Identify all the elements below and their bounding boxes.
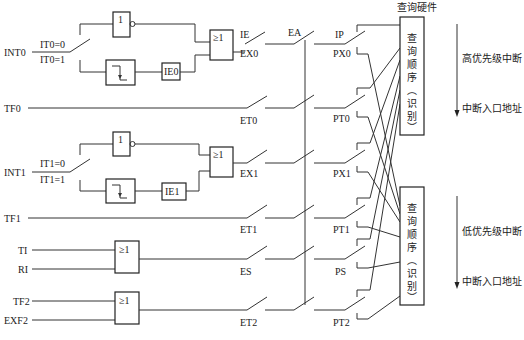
pt2-label: PT2 xyxy=(333,317,350,328)
int1-label: INT1 xyxy=(4,167,26,178)
it1-selector-switch xyxy=(70,159,90,172)
ex1-label: EX1 xyxy=(240,168,258,179)
char: 序 xyxy=(407,241,417,253)
pt1-label: PT1 xyxy=(333,224,350,235)
tf2-label: TF2 xyxy=(13,296,30,307)
char: 识 xyxy=(407,268,417,279)
tf1-section: TF1 ET1 xyxy=(4,205,267,235)
query-hardware-title: 查询硬件 xyxy=(397,1,437,13)
priority-switches: IP PX0 PT0 PX1 PT1 PS PT2 xyxy=(314,25,400,328)
routing-wires xyxy=(368,48,400,319)
low-priority-label: 低优先级中断 xyxy=(462,225,522,237)
char: 别 xyxy=(407,281,417,292)
it1-0-label: IT1=0 xyxy=(40,158,65,169)
tf1-label: TF1 xyxy=(4,213,21,224)
pt2-switch xyxy=(345,297,365,310)
char: ︶ xyxy=(407,122,417,133)
ps-switch xyxy=(345,246,365,259)
char: 询 xyxy=(407,45,417,57)
query-hardware: 查询硬件 查 询 顺 序 ︵ 识 别 ︶ 查 询 顺 序 ︵ 识 别 ︶ 高优先… xyxy=(397,1,522,305)
interrupt-system-diagram: INT0 IT0=0 IT0=1 1 IE0 ≥1 IE EX0 xyxy=(0,0,524,340)
char: 查 xyxy=(407,202,417,214)
ex0-label: EX0 xyxy=(240,48,258,59)
et1-label: ET1 xyxy=(240,224,257,235)
exf2-label: EXF2 xyxy=(4,315,28,326)
low-box-text: 查 询 顺 序 ︵ 识 别 ︶ xyxy=(407,202,417,303)
timer2-section: TF2 EXF2 ≥1 ET2 xyxy=(4,292,267,328)
high-priority-label: 高优先级中断 xyxy=(462,52,522,64)
or-gate-symbol: ≥1 xyxy=(119,295,130,306)
int0-section: INT0 IT0=0 IT0=1 1 IE0 ≥1 IE EX0 xyxy=(4,12,265,85)
char: ︵ xyxy=(407,85,417,96)
char: 查 xyxy=(407,32,417,44)
char: 识 xyxy=(407,98,417,109)
tf0-label: TF0 xyxy=(4,103,21,114)
inverter-bubble xyxy=(130,142,135,147)
ie-label: IE xyxy=(240,29,249,40)
pt0-switch xyxy=(345,95,365,108)
char: 序 xyxy=(407,71,417,83)
it0-1-label: IT0=1 xyxy=(40,54,65,65)
serial-section: TI RI ≥1 ES xyxy=(18,241,267,277)
not-gate-symbol: 1 xyxy=(118,134,123,145)
tf0-section: TF0 ET0 xyxy=(4,96,267,126)
ie0-label: IE0 xyxy=(164,66,178,77)
or-gate-symbol: ≥1 xyxy=(213,149,224,160)
char: ︶ xyxy=(407,292,417,303)
char: 顺 xyxy=(407,229,417,240)
px0-switch xyxy=(345,31,365,44)
or-gate-symbol: ≥1 xyxy=(119,244,130,255)
et0-label: ET0 xyxy=(240,115,257,126)
int0-label: INT0 xyxy=(4,47,26,58)
ea-global-enable: EA xyxy=(265,27,314,310)
vector-address-label-low: 中断入口地址 xyxy=(462,275,522,287)
ip-label: IP xyxy=(335,29,344,40)
pt0-label: PT0 xyxy=(333,113,350,124)
ie1-label: IE1 xyxy=(165,186,179,197)
it0-selector-switch xyxy=(70,39,90,52)
it1-1-label: IT1=1 xyxy=(40,174,65,185)
not-gate-symbol: 1 xyxy=(118,14,123,25)
char: ︵ xyxy=(407,255,417,266)
et2-label: ET2 xyxy=(240,317,257,328)
et1-switch xyxy=(247,205,267,218)
high-box-text: 查 询 顺 序 ︵ 识 别 ︶ xyxy=(407,32,417,133)
char: 顺 xyxy=(407,59,417,70)
ri-label: RI xyxy=(18,264,28,275)
ps-label: PS xyxy=(335,266,346,277)
ea-label: EA xyxy=(288,27,302,38)
inverter-bubble xyxy=(130,22,135,27)
ti-label: TI xyxy=(18,245,27,256)
es-switch xyxy=(247,246,267,259)
char: 别 xyxy=(407,111,417,122)
pt1-switch xyxy=(345,205,365,218)
et0-switch xyxy=(247,96,267,108)
px0-label: PX0 xyxy=(333,48,351,59)
int1-section: INT1 IT1=0 IT1=1 1 IE1 ≥1 EX1 xyxy=(4,132,267,203)
vector-address-label-high: 中断入口地址 xyxy=(462,102,522,114)
px1-switch xyxy=(345,150,365,163)
es-label: ES xyxy=(240,266,252,277)
px1-label: PX1 xyxy=(333,168,351,179)
it0-0-label: IT0=0 xyxy=(40,39,65,50)
et2-switch xyxy=(247,297,267,310)
char: 询 xyxy=(407,215,417,227)
ex1-enable-switch xyxy=(247,150,267,163)
or-gate-symbol: ≥1 xyxy=(213,32,224,43)
